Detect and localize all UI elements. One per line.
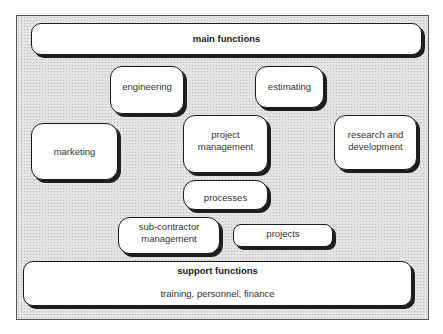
processes-box: processes [183,180,268,210]
projects-label: projects [266,228,299,240]
support-functions-detail: training, personnel, finance [160,288,274,300]
marketing-label: marketing [54,146,96,158]
support-functions-box: support functions training, personnel, f… [23,261,412,306]
estimating-box: estimating [255,66,324,108]
project-management-box: project management [183,115,268,173]
marketing-box: marketing [31,123,118,180]
projects-box: projects [233,224,333,247]
project-management-label-line1: project [211,129,240,141]
project-management-label-line2: management [198,141,253,153]
support-functions-label: support functions [177,265,258,277]
engineering-box: engineering [110,66,184,114]
sub-contractor-label-line2: management [141,233,196,245]
research-development-box: research and development [334,115,417,170]
research-development-label-line1: research and [348,129,403,141]
engineering-label: engineering [122,81,172,93]
estimating-label: estimating [268,81,311,93]
main-functions-box: main functions [31,23,422,55]
sub-contractor-management-box: sub-contractor management [118,217,220,254]
main-functions-label: main functions [193,33,261,45]
processes-label: processes [204,192,247,204]
sub-contractor-label-line1: sub-contractor [139,221,200,233]
research-development-label-line2: development [348,141,402,153]
